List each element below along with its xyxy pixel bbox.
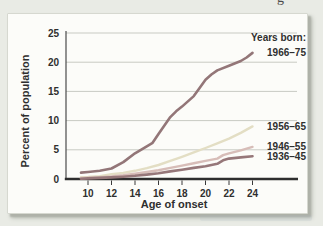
series-label: 1966–75 [267,47,306,58]
x-tick-label: 22 [223,188,235,199]
chart-svg: 051015202510121416182022241966–751956–65… [8,14,307,213]
y-tick-label: 25 [48,28,60,39]
page: { "page": { "clipped_text_fragment": "g"… [0,0,323,226]
y-tick-label: 10 [48,115,60,126]
page-text-fragment: g [277,0,291,7]
x-tick-label: 12 [106,188,118,199]
y-tick-label: 0 [53,174,59,185]
x-tick-label: 24 [247,188,259,199]
chart-figure: 051015202510121416182022241966–751956–65… [7,13,308,214]
x-tick-label: 10 [82,188,94,199]
series-layer [81,53,253,179]
x-axis-title: Age of onset [141,198,208,210]
y-tick-label: 15 [48,86,60,97]
legend-title: Years born: [251,32,306,43]
gridlines-layer [66,33,297,185]
page-showthrough-artifact [120,217,180,221]
x-tick-label: 14 [129,188,141,199]
y-tick-label: 5 [53,144,59,155]
series-label: 1936–45 [267,151,306,162]
series-label: 1956–65 [267,121,306,132]
page-showthrough-artifact [200,215,312,221]
y-axis-title: Percent of population [19,54,31,167]
y-tick-label: 20 [48,57,60,68]
